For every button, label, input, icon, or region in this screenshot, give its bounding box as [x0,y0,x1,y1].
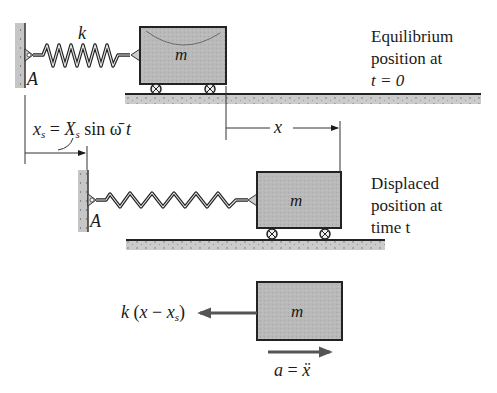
force-x: x [140,302,148,322]
wheel-icon [205,84,215,94]
eq-t: t [126,119,131,139]
accel-xddot: ẍ [302,360,310,380]
eq-Xs: X [64,119,75,139]
support-displacement-equation: xs = Xs sin ω̄ t [33,120,131,140]
caption-line: position at [371,48,453,70]
anchor-bracket-icon [88,194,96,206]
accel-a: a [274,360,283,380]
mass-bracket-icon [131,49,140,61]
moving-support-wall [78,170,88,232]
spring-k [33,45,130,66]
ground [125,94,481,104]
force-paren-open: ( [129,302,140,322]
spring-stretched [96,193,248,207]
wheel-icon [320,229,330,239]
mass-label: m [290,191,302,211]
anchor-label: A [90,212,101,230]
mass-bracket-icon [248,194,257,206]
eq-omega: ω̄ [110,119,122,139]
force-xs: x [167,302,175,322]
wheel-icon [267,229,277,239]
caption-line: time t [371,217,442,239]
eq-equals: = [45,119,64,139]
displaced-panel [78,170,385,250]
accel-equals: = [283,360,302,380]
caption-line: position at [371,195,442,217]
force-k: k [121,302,129,322]
spring-constant-label: k [78,24,86,42]
forced-vibration-diagram: k A m Equilibrium position at t = 0 xs =… [0,0,497,393]
free-body-panel [200,282,342,352]
caption-line: Equilibrium [371,26,453,48]
displaced-caption: Displaced position at time t [371,173,442,239]
spring-force-label: k (x − xs) [121,303,185,323]
caption-line: t = 0 [371,70,453,92]
wheel-icon [151,84,161,94]
eq-sin: sin [80,119,110,139]
anchor-bracket-icon [25,49,33,61]
acceleration-label: a = ẍ [274,361,310,379]
caption-line: Displaced [371,173,442,195]
fixed-wall [15,23,25,88]
force-minus: − [148,302,167,322]
ground [126,240,385,250]
equilibrium-caption: Equilibrium position at t = 0 [371,26,453,92]
eq-xs: x [33,119,41,139]
mass-label: m [175,45,187,65]
anchor-label: A [27,70,38,88]
force-paren-close: ) [179,302,185,322]
mass-displacement-label: x [274,118,282,136]
mass-label: m [291,302,303,322]
